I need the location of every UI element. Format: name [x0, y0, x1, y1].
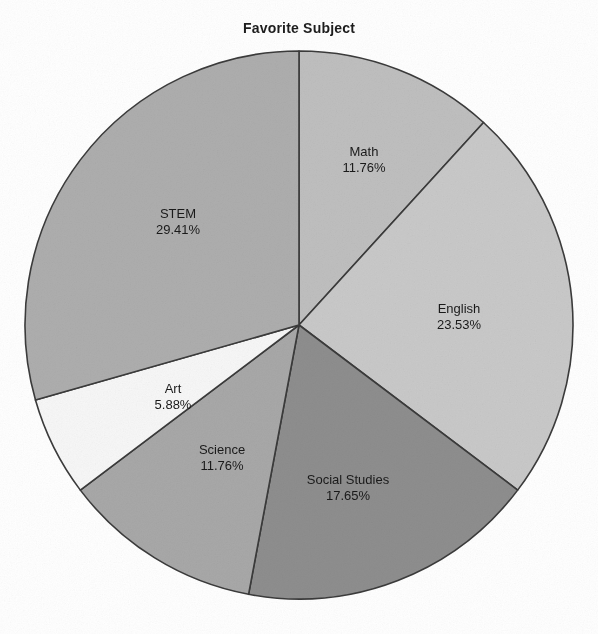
pie-chart-figure: Favorite Subject Math11.76%English23.53%…	[0, 0, 598, 634]
pie-slices-group	[25, 51, 573, 599]
pie-chart-canvas	[0, 0, 598, 634]
